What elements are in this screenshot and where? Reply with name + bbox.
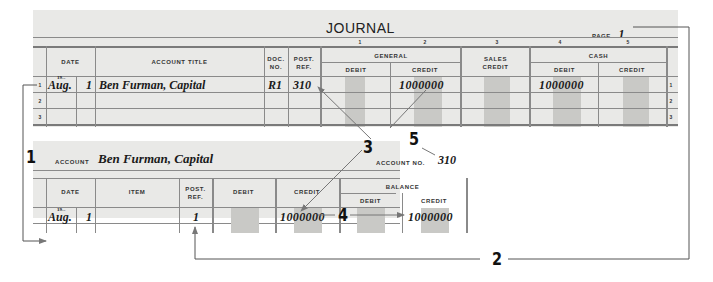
connector-arrows	[0, 0, 713, 282]
callout-3: 3	[363, 139, 373, 156]
callout-2: 2	[489, 251, 504, 268]
callout-4: 4	[338, 207, 348, 224]
callout-5: 5	[409, 131, 419, 148]
